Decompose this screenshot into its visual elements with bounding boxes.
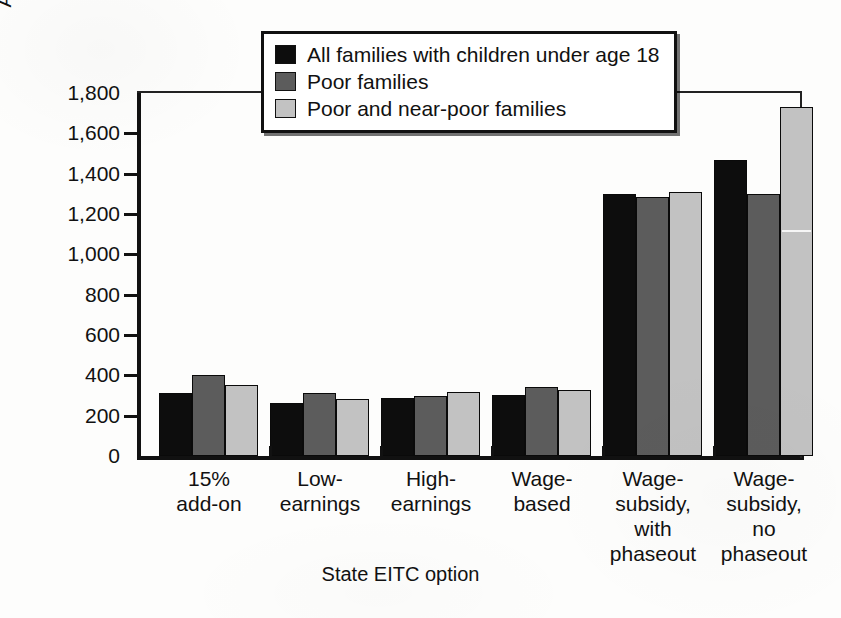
bar <box>780 107 813 456</box>
y-axis-tick <box>124 334 137 337</box>
bar <box>603 194 636 456</box>
y-axis-tick-label: 1,000 <box>67 242 120 266</box>
bar <box>447 392 480 456</box>
y-axis-tick <box>124 374 137 377</box>
y-axis-tick-label: 600 <box>85 323 120 347</box>
bar <box>414 396 447 457</box>
bar <box>636 197 669 456</box>
y-axis-tick-label: 1,600 <box>67 121 120 145</box>
bar <box>159 393 192 456</box>
bar <box>747 194 780 456</box>
bar <box>714 160 747 456</box>
bar <box>492 395 525 457</box>
x-axis-category-label: Wage- subsidy, no phaseout <box>694 466 834 566</box>
bar <box>225 385 258 456</box>
x-axis-tick <box>602 446 605 460</box>
legend-item: Poor and near-poor families <box>275 95 660 122</box>
bar-group <box>603 93 702 456</box>
chart-legend: All families with children under age 18 … <box>261 31 677 133</box>
bar <box>558 390 591 456</box>
bar-group <box>270 93 369 456</box>
x-axis-tick <box>380 446 383 460</box>
y-axis-tick <box>124 173 137 176</box>
bar <box>192 375 225 456</box>
legend-swatch-icon <box>275 72 296 91</box>
bar-group <box>159 93 258 456</box>
y-axis-tick-label: 400 <box>85 363 120 387</box>
bar-group <box>492 93 591 456</box>
y-axis-tick <box>124 415 137 418</box>
bar-group <box>714 93 813 456</box>
bar <box>336 399 369 456</box>
x-axis-tick <box>491 446 494 460</box>
legend-item: All families with children under age 18 <box>275 41 660 68</box>
legend-item-label: Poor families <box>307 70 428 94</box>
bar <box>303 393 336 456</box>
y-axis-title: Average annual benefit ($) <box>0 0 16 44</box>
y-axis-tick-label: 1,400 <box>67 162 120 186</box>
legend-swatch-icon <box>275 45 296 64</box>
y-axis-tick-label: 800 <box>85 283 120 307</box>
bar <box>669 192 702 456</box>
legend-swatch-icon <box>275 99 296 118</box>
bar <box>381 398 414 456</box>
y-axis-tick-label: 200 <box>85 404 120 428</box>
x-axis-tick <box>269 446 272 460</box>
y-axis-tick-label: 0 <box>108 444 120 468</box>
y-axis-line <box>137 91 141 458</box>
chart-figure: Average annual benefit ($) 0200400600800… <box>0 0 841 618</box>
y-axis-tick-label: 1,200 <box>67 202 120 226</box>
plot-area: 02004006008001,0001,2001,4001,6001,800 <box>137 93 802 456</box>
bar <box>270 403 303 456</box>
y-axis-tick <box>124 253 137 256</box>
x-axis-title: State EITC option <box>0 563 841 586</box>
bar <box>525 387 558 456</box>
y-axis-tick <box>124 294 137 297</box>
legend-item-label: All families with children under age 18 <box>307 43 660 67</box>
legend-item-label: Poor and near-poor families <box>307 97 566 121</box>
y-axis-tick-label: 1,800 <box>67 81 120 105</box>
y-axis-tick <box>124 213 137 216</box>
x-axis-title-text: State EITC option <box>322 563 480 585</box>
bar-group <box>381 93 480 456</box>
y-axis-tick <box>124 132 137 135</box>
x-axis-tick <box>713 446 716 460</box>
x-axis-line <box>137 456 804 460</box>
legend-item: Poor families <box>275 68 660 95</box>
